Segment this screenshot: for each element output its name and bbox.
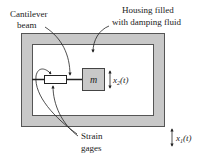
housing-label-line1: Housing filled	[122, 5, 174, 15]
strain-label-line2: gages	[81, 143, 102, 153]
housing-label-line2: with damping fluid	[112, 17, 181, 27]
mass-label: m	[90, 74, 97, 85]
strain-label-line1: Strain	[81, 131, 103, 141]
diagram-canvas: m x2(t) x1(t) Cantilever beam Housing fi…	[0, 0, 207, 159]
x2-label: x2(t)	[112, 75, 129, 86]
cantilever-label-line2: beam	[17, 20, 37, 30]
x1-label: x1(t)	[175, 133, 192, 144]
strain-gage	[45, 76, 67, 84]
cantilever-label-line1: Cantilever	[10, 9, 48, 19]
accelerometer-diagram: m x2(t) x1(t) Cantilever beam Housing fi…	[0, 0, 207, 159]
